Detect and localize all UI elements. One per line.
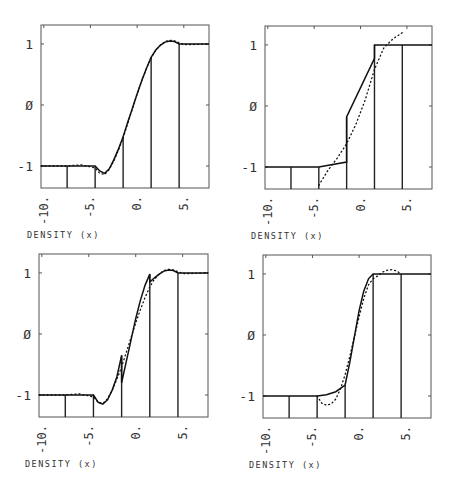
plot-frame xyxy=(265,26,432,189)
y-tick-label: -1 xyxy=(15,388,31,403)
x-tick-label: 0. xyxy=(130,196,144,210)
exact-solution-curve xyxy=(39,269,208,403)
y-tick-label: -1 xyxy=(241,160,257,175)
plot-top-left: 1Ø-1-10.-5.0.5.DENSITY (x) xyxy=(17,25,209,240)
y-tick-label: Ø xyxy=(25,98,33,113)
x-axis-label: DENSITY (x) xyxy=(25,459,98,469)
x-tick-label: -10. xyxy=(259,426,273,455)
x-tick-label: 0. xyxy=(352,426,366,440)
x-tick-label: -10. xyxy=(37,196,51,225)
exact-solution-curve xyxy=(41,40,209,174)
x-axis-label: DENSITY (x) xyxy=(249,460,322,470)
y-tick-label: 1 xyxy=(247,267,255,282)
y-tick-label: 1 xyxy=(249,38,257,53)
figure-canvas: 1Ø-1-10.-5.0.5.DENSITY (x) 1Ø-1-10.-5.0.… xyxy=(0,0,455,487)
x-tick-label: -10. xyxy=(261,197,275,226)
x-tick-label: -5. xyxy=(82,425,96,447)
x-tick-label: -5. xyxy=(307,197,321,219)
x-tick-label: -10. xyxy=(35,425,49,454)
approximation-curve xyxy=(39,270,208,404)
y-tick-label: Ø xyxy=(23,327,31,342)
x-tick-label: -5. xyxy=(83,196,97,218)
y-tick-label: 1 xyxy=(23,266,31,281)
approximation-curve xyxy=(41,41,209,173)
plot-frame xyxy=(39,254,208,417)
y-tick-label: -1 xyxy=(17,159,33,174)
exact-solution-curve xyxy=(317,270,401,406)
x-tick-label: 5. xyxy=(177,196,191,210)
x-tick-label: 5. xyxy=(400,197,414,211)
approximation-curve xyxy=(265,45,432,167)
plot-frame xyxy=(41,25,209,188)
plot-top-right: 1Ø-1-10.-5.0.5.DENSITY (x) xyxy=(241,26,432,241)
x-tick-label: 0. xyxy=(354,197,368,211)
x-tick-label: 0. xyxy=(129,425,143,439)
x-axis-label: DENSITY (x) xyxy=(251,231,324,241)
plot-frame xyxy=(263,255,431,418)
exact-solution-curve xyxy=(319,33,403,186)
x-axis-label: DENSITY (x) xyxy=(27,230,100,240)
y-tick-label: 1 xyxy=(25,37,33,52)
plot-bottom-right: 1Ø-1-10.-5.0.5.DENSITY (x) xyxy=(239,255,431,470)
y-tick-label: Ø xyxy=(247,328,255,343)
y-tick-label: Ø xyxy=(249,99,257,114)
x-tick-label: 5. xyxy=(176,425,190,439)
plot-bottom-left: 1Ø-1-10.-5.0.5.DENSITY (x) xyxy=(15,254,208,469)
approximation-curve xyxy=(263,274,431,396)
x-tick-label: -5. xyxy=(305,426,319,448)
y-tick-label: -1 xyxy=(239,389,255,404)
x-tick-label: 5. xyxy=(399,426,413,440)
